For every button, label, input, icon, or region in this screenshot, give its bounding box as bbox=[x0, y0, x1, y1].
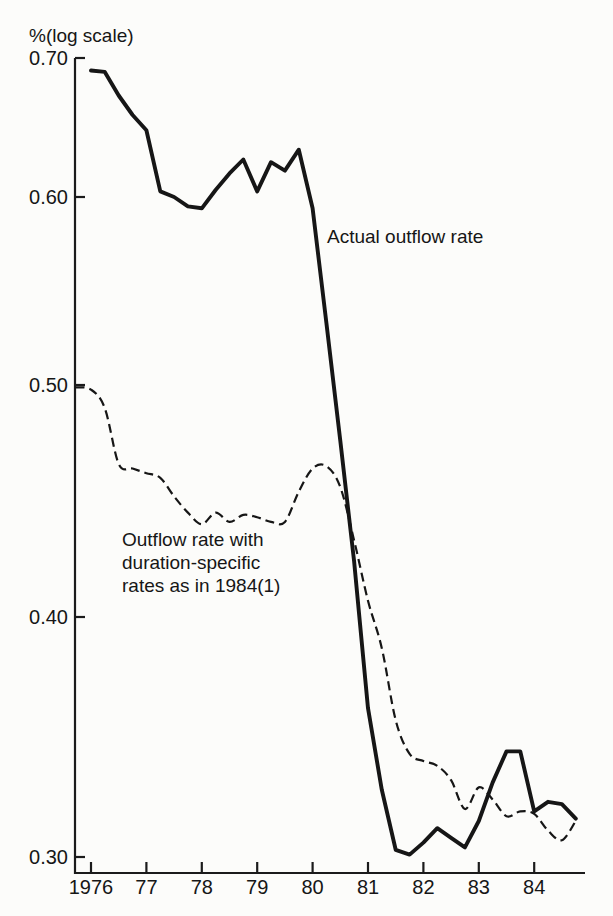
x-tick-label: 81 bbox=[338, 876, 398, 899]
x-tick-label: 84 bbox=[504, 876, 564, 899]
x-tick-label: 79 bbox=[227, 876, 287, 899]
y-tick-label: 0.50 bbox=[12, 374, 68, 397]
chart-canvas bbox=[0, 0, 613, 916]
actual-outflow-line bbox=[91, 71, 576, 855]
x-tick-label: 78 bbox=[172, 876, 232, 899]
x-tick-label: 80 bbox=[283, 876, 343, 899]
x-tick-label: 83 bbox=[449, 876, 509, 899]
y-axis-unit-label: %(log scale) bbox=[29, 25, 134, 47]
x-tick-label: 77 bbox=[116, 876, 176, 899]
y-tick-label: 0.60 bbox=[12, 186, 68, 209]
x-tick-label: 1976 bbox=[61, 876, 121, 899]
simulated-outflow-line bbox=[76, 387, 576, 840]
y-tick-label: 0.30 bbox=[12, 846, 68, 869]
series-label-duration-specific-line3: rates as in 1984(1) bbox=[122, 574, 280, 597]
x-tick-label: 82 bbox=[393, 876, 453, 899]
series-label-duration-specific-line2: duration-specific bbox=[122, 551, 280, 574]
series-label-duration-specific-line1: Outflow rate with bbox=[122, 528, 280, 551]
y-tick-label: 0.40 bbox=[12, 606, 68, 629]
outflow-rate-chart: %(log scale) 0.700.600.500.400.30 197677… bbox=[0, 0, 613, 916]
y-tick-label: 0.70 bbox=[12, 47, 68, 70]
series-label-actual-outflow: Actual outflow rate bbox=[327, 226, 483, 248]
series-label-duration-specific: Outflow rate with duration-specific rate… bbox=[122, 528, 280, 597]
